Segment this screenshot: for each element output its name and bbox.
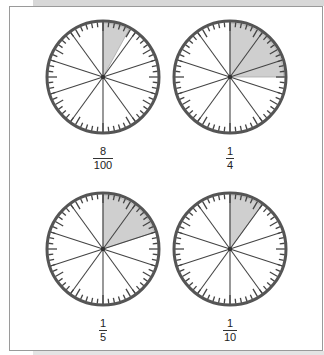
minute-tick — [189, 212, 193, 215]
minute-tick — [213, 197, 215, 202]
minute-tick — [76, 289, 81, 297]
numerator: 1 — [83, 318, 123, 330]
minute-tick — [62, 282, 66, 285]
minute-tick — [76, 29, 81, 37]
minute-tick — [180, 97, 185, 99]
sector-line — [103, 77, 155, 94]
minute-tick — [186, 217, 190, 220]
minute-tick — [176, 66, 181, 67]
minute-tick — [198, 33, 201, 37]
minute-tick — [53, 269, 58, 271]
minute-tick — [97, 194, 98, 199]
minute-tick — [245, 125, 247, 130]
clock-3 — [43, 189, 163, 309]
minute-tick — [278, 92, 283, 94]
minute-tick — [118, 125, 120, 130]
numerator: 8 — [83, 146, 123, 158]
sector-line — [198, 205, 230, 249]
minute-tick — [86, 197, 88, 202]
minute-tick — [270, 272, 278, 277]
minute-tick — [175, 254, 180, 255]
minute-tick — [149, 269, 154, 271]
minute-tick — [176, 238, 181, 239]
minute-tick — [59, 278, 63, 281]
minute-tick — [76, 117, 81, 125]
minute-tick — [140, 110, 144, 113]
clock-2 — [170, 17, 290, 137]
minute-tick — [189, 110, 193, 113]
minute-tick — [180, 55, 185, 57]
minute-tick — [175, 71, 180, 72]
minute-tick — [235, 127, 236, 132]
minute-tick — [48, 71, 53, 72]
minute-tick — [152, 259, 157, 260]
minute-tick — [76, 201, 81, 209]
minute-tick — [86, 297, 88, 302]
minute-tick — [208, 123, 210, 128]
fraction-label-2: 1 4 — [210, 146, 250, 171]
minute-tick — [219, 298, 220, 303]
minute-tick — [51, 92, 56, 94]
shaded-wedge — [103, 23, 129, 77]
minute-tick — [132, 289, 135, 293]
sector-line — [230, 249, 262, 293]
minute-tick — [276, 97, 281, 99]
minute-tick — [189, 282, 193, 285]
minute-tick — [81, 123, 83, 128]
minute-tick — [253, 117, 258, 125]
minute-tick — [208, 199, 210, 204]
minute-tick — [270, 106, 274, 109]
sector-line — [230, 77, 262, 121]
minute-tick — [55, 272, 63, 277]
minute-tick — [235, 299, 236, 304]
minute-tick — [208, 295, 210, 300]
minute-tick — [143, 100, 151, 105]
minute-tick — [182, 272, 190, 277]
fraction-label-3: 1 5 — [83, 318, 123, 343]
minute-tick — [81, 199, 83, 204]
minute-tick — [219, 195, 220, 200]
minute-tick — [198, 117, 201, 121]
sector-line — [103, 77, 135, 121]
sector-line — [198, 33, 230, 77]
minute-tick — [152, 66, 157, 67]
minute-tick — [151, 60, 156, 62]
minute-tick — [219, 126, 220, 131]
minute-tick — [53, 227, 58, 229]
minute-tick — [97, 299, 98, 304]
minute-tick — [259, 289, 262, 293]
minute-tick — [151, 92, 156, 94]
minute-tick — [176, 87, 181, 88]
minute-tick — [193, 286, 196, 290]
minute-tick — [143, 106, 147, 109]
fraction-label-1: 8 100 — [83, 146, 123, 171]
sector-line — [71, 249, 103, 293]
sector-line — [230, 77, 282, 94]
minute-tick — [136, 114, 139, 118]
sector-line — [51, 77, 103, 94]
minute-tick — [71, 205, 74, 209]
minute-tick — [224, 127, 225, 132]
sector-line — [71, 205, 103, 249]
minute-tick — [198, 205, 201, 209]
minute-tick — [51, 60, 56, 62]
minute-tick — [53, 55, 58, 57]
minute-tick — [219, 23, 220, 28]
sector-line — [51, 60, 103, 77]
minute-tick — [132, 117, 135, 121]
minute-tick — [140, 282, 144, 285]
minute-tick — [198, 289, 201, 293]
minute-tick — [224, 22, 225, 27]
minute-tick — [48, 82, 53, 83]
minute-tick — [59, 45, 63, 48]
minute-tick — [189, 40, 193, 43]
denominator: 5 — [83, 331, 123, 343]
minute-tick — [123, 295, 125, 300]
minute-tick — [153, 243, 158, 244]
minute-tick — [186, 278, 190, 281]
bottom-band — [33, 351, 324, 355]
clock-1 — [43, 17, 163, 137]
minute-tick — [176, 259, 181, 260]
minute-tick — [175, 82, 180, 83]
sector-line — [71, 33, 103, 77]
